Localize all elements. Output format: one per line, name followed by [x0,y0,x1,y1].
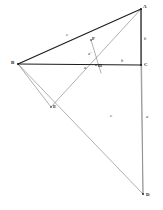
segment-label-c-cevian: c [110,114,112,119]
segment-label-a-prime: a' [88,52,91,57]
vertex-dot-B [17,63,19,65]
vertex-dot-H [95,64,97,66]
vertex-dot-C [140,64,142,66]
segment-label-a-base: a [84,66,86,71]
segment-label-c-hypotenuse: c [66,33,68,38]
geometric-figure: A B C D E F H c b b a a' c a [0,0,163,210]
vertex-dot-D [142,193,144,195]
point-label-B: B [11,60,14,65]
point-label-D: D [146,192,150,197]
segment-label-a-right: a [146,115,148,120]
point-label-F: F [92,36,95,41]
point-label-A: A [143,4,147,9]
vertex-dot-E [50,106,52,108]
point-label-E: E [53,104,56,109]
point-label-H: H [98,63,102,68]
segment-label-b-vertical: b [144,37,146,42]
vertex-dot-A [140,8,142,10]
figure-background [0,0,163,210]
segment-label-b-base: b [121,59,123,64]
figure-canvas [0,0,163,210]
point-label-C: C [144,62,148,67]
